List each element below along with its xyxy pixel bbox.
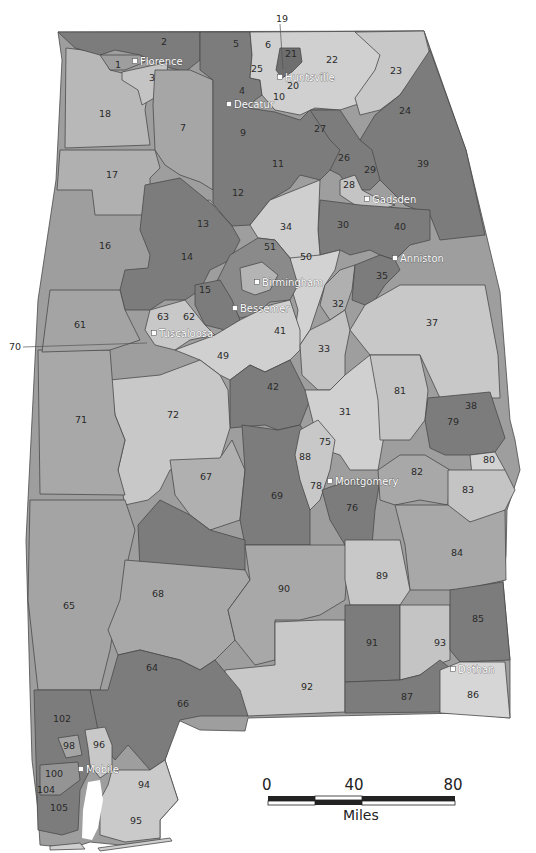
district-label-90: 90 [278, 583, 290, 594]
scale-segment-2-under [315, 800, 362, 805]
district-label-86: 86 [467, 689, 479, 700]
district-label-22: 22 [326, 54, 338, 65]
city-marker-icon [365, 197, 370, 202]
city-marker-icon [393, 256, 398, 261]
scale-segment-3 [362, 796, 455, 801]
district-label-17: 17 [106, 169, 118, 180]
scale-unit-label: Miles [343, 807, 379, 823]
district-label-26: 26 [338, 152, 350, 163]
city-marker-icon [278, 75, 283, 80]
city-label-florence: Florence [140, 56, 183, 67]
district-label-100: 100 [45, 768, 63, 779]
district-label-82: 82 [411, 466, 423, 477]
district-label-10: 10 [273, 91, 285, 102]
city-label-bessemer: Bessemer [240, 303, 290, 314]
city-label-mobile: Mobile [86, 764, 119, 775]
city-label-birmingham: Birmingham [262, 277, 323, 288]
district-label-51: 51 [264, 241, 276, 252]
district-label-24: 24 [399, 105, 411, 116]
district-label-29: 29 [364, 164, 376, 175]
alabama-house-districts-map: 1234567910111213141516171820212223242526… [0, 0, 536, 853]
district-label-64: 64 [146, 662, 158, 673]
district-label-94: 94 [138, 779, 150, 790]
scale-tick-80: 80 [443, 776, 462, 794]
scale-segment-1 [268, 796, 315, 801]
city-marker-icon [451, 667, 456, 672]
district-label-15: 15 [199, 284, 211, 295]
district-label-37: 37 [426, 317, 438, 328]
district-label-68: 68 [152, 588, 164, 599]
district-label-25: 25 [251, 63, 263, 74]
scale-tick-0: 0 [262, 776, 272, 794]
district-label-92: 92 [301, 681, 313, 692]
city-label-huntsville: Huntsville [285, 72, 335, 83]
district-label-21: 21 [285, 48, 297, 59]
scale-tick-40: 40 [344, 776, 363, 794]
district-label-61: 61 [74, 319, 86, 330]
city-marker-icon [133, 59, 138, 64]
district-label-11: 11 [272, 158, 284, 169]
city-marker-icon [227, 102, 232, 107]
district-label-83: 83 [462, 484, 474, 495]
district-label-96: 96 [93, 739, 105, 750]
district-label-42: 42 [267, 381, 279, 392]
district-label-12: 12 [232, 187, 244, 198]
district-label-104: 104 [37, 784, 55, 795]
district-label-38: 38 [465, 400, 477, 411]
district-label-78: 78 [310, 480, 322, 491]
district-label-79: 79 [447, 416, 459, 427]
district-label-31: 31 [339, 406, 351, 417]
district-label-27: 27 [314, 123, 326, 134]
district-label-71: 71 [75, 414, 87, 425]
district-label-18: 18 [99, 108, 111, 119]
district-label-95: 95 [130, 815, 142, 826]
city-label-montgomery: Montgomery [335, 476, 398, 487]
district-label-105: 105 [50, 802, 68, 813]
district-label-3: 3 [149, 72, 155, 83]
district-label-50: 50 [300, 251, 312, 262]
district-label-89: 89 [376, 570, 388, 581]
city-label-gadsden: Gadsden [372, 194, 416, 205]
district-label-67: 67 [200, 471, 212, 482]
scale-segment-2 [315, 796, 362, 800]
district-label-84: 84 [451, 547, 463, 558]
city-label-anniston: Anniston [400, 253, 444, 264]
city-label-tuscaloosa: Tuscaloosa [158, 328, 213, 339]
city-marker-icon [233, 306, 238, 311]
district-label-87: 87 [401, 691, 413, 702]
district-label-98: 98 [63, 740, 75, 751]
district-label-40: 40 [394, 221, 406, 232]
district-label-14: 14 [181, 251, 193, 262]
district-label-2: 2 [161, 36, 167, 47]
city-marker-icon [255, 280, 260, 285]
scale-bar: 0 40 80 Miles [262, 776, 463, 823]
district-label-63: 63 [157, 311, 169, 322]
city-label-decatur: Decatur [234, 99, 275, 110]
district-label-66: 66 [177, 698, 189, 709]
district-label-30: 30 [337, 219, 349, 230]
city-label-dothan: Dothan [458, 664, 495, 675]
district-label-49: 49 [217, 350, 229, 361]
district-label-80: 80 [483, 454, 495, 465]
district-label-5: 5 [233, 38, 239, 49]
district-label-1: 1 [115, 59, 121, 70]
district-label-28: 28 [343, 179, 355, 190]
district-label-93: 93 [434, 637, 446, 648]
district-label-102: 102 [53, 713, 71, 724]
district-label-62: 62 [183, 311, 195, 322]
district-label-35: 35 [376, 270, 388, 281]
district-label-72: 72 [167, 409, 179, 420]
district-label-88: 88 [299, 451, 311, 462]
district-label-81: 81 [394, 385, 406, 396]
district-label-16: 16 [99, 240, 111, 251]
district-label-23: 23 [390, 65, 402, 76]
district-label-41: 41 [274, 325, 286, 336]
district-label-13: 13 [197, 218, 209, 229]
city-marker-icon [79, 767, 84, 772]
scale-segment-3-under [362, 801, 455, 805]
district-label-75: 75 [319, 436, 331, 447]
scale-segment-1-under [268, 801, 315, 805]
district-label-4: 4 [239, 85, 245, 96]
city-marker-icon [152, 331, 157, 336]
district-label-33: 33 [318, 343, 330, 354]
